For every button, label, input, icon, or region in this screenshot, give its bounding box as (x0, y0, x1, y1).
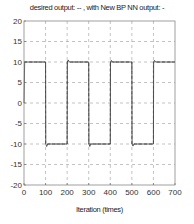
x-tick-label: 300 (82, 188, 96, 197)
y-tick-label: 10 (13, 58, 22, 67)
y-tick-label: 5 (18, 78, 23, 87)
chart-plot-area: 20151050-5-10-15-20010020030040050060070… (0, 0, 194, 224)
x-tick-label: 200 (60, 188, 74, 197)
x-tick-label: 100 (39, 188, 53, 197)
y-tick-label: 15 (13, 37, 22, 46)
x-tick-label: 500 (125, 188, 139, 197)
x-tick-label: 0 (22, 188, 27, 197)
x-axis-label: Iteration (times) (24, 205, 175, 214)
y-tick-label: 0 (18, 99, 23, 108)
y-tick-label: -10 (10, 140, 22, 149)
y-tick-label: -20 (10, 181, 22, 190)
y-tick-label: -5 (15, 119, 23, 128)
x-tick-label: 400 (104, 188, 118, 197)
y-tick-label: -15 (10, 160, 22, 169)
y-tick-label: 20 (13, 17, 22, 26)
x-tick-label: 700 (168, 188, 182, 197)
x-tick-label: 600 (147, 188, 161, 197)
